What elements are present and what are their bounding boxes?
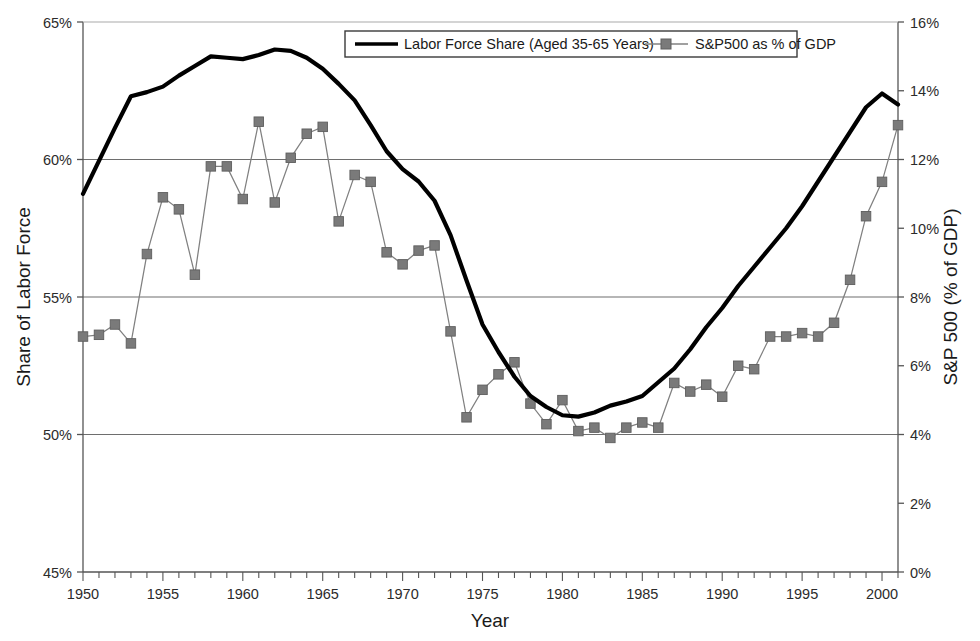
sp500-data-point (302, 129, 312, 139)
y2-axis-tick-label: 4% (910, 427, 931, 443)
y2-axis-tick-label: 2% (910, 496, 931, 512)
sp500-data-point (701, 380, 711, 390)
sp500-data-point (813, 332, 823, 342)
sp500-data-point (542, 419, 552, 429)
x-axis-tick-label: 1995 (786, 586, 818, 602)
legend-label-labor-force-share: Labor Force Share (Aged 35-65 Years) (404, 36, 654, 52)
sp500-data-point (174, 205, 184, 215)
sp500-data-point (686, 387, 696, 397)
sp500-data-point (110, 320, 120, 330)
y-axis-left-title: Share of Labor Force (13, 207, 34, 387)
sp500-data-point (749, 364, 759, 374)
sp500-data-point (350, 170, 360, 180)
sp500-data-point (893, 120, 903, 130)
sp500-data-point (446, 327, 456, 337)
sp500-data-point (558, 395, 568, 405)
y2-axis-tick-label: 8% (910, 290, 931, 306)
sp500-data-point (430, 241, 440, 251)
sp500-data-point (622, 423, 632, 433)
sp500-data-point (462, 413, 472, 423)
sp500-data-point (478, 385, 488, 395)
y-axis-tick-label: 60% (43, 152, 72, 168)
sp500-data-point (414, 246, 424, 256)
sp500-data-point (829, 318, 839, 328)
y2-axis-tick-label: 16% (910, 15, 939, 31)
sp500-data-point (254, 117, 263, 127)
x-axis-tick-label: 2000 (866, 586, 898, 602)
sp500-data-point (206, 162, 216, 172)
square-marker-swatch-icon (661, 39, 671, 49)
sp500-data-point (78, 332, 88, 342)
sp500-data-point (717, 392, 727, 402)
sp500-data-point (845, 275, 855, 285)
x-axis-title: Year (471, 610, 510, 631)
sp500-data-point (781, 332, 791, 342)
y2-axis-tick-label: 14% (910, 83, 939, 99)
y-axis-left-tick-labels: 45%50%55%60%65% (43, 15, 72, 581)
x-axis-tick-label: 1980 (546, 586, 578, 602)
sp500-data-point (574, 426, 584, 436)
x-axis-tick-label: 1975 (466, 586, 498, 602)
sp500-data-point (366, 177, 376, 187)
sp500-data-point (765, 332, 775, 342)
sp500-data-point (638, 418, 648, 428)
y2-axis-tick-label: 10% (910, 221, 939, 237)
sp500-data-point (733, 361, 743, 371)
sp500-data-point (398, 260, 408, 270)
x-axis-tick-label: 1990 (706, 586, 738, 602)
y2-axis-tick-label: 12% (910, 152, 939, 168)
sp500-data-point (158, 193, 168, 203)
y-axis-left-ticks (77, 22, 83, 572)
y-axis-tick-label: 45% (43, 565, 72, 581)
sp500-data-point (877, 177, 887, 187)
sp500-data-point (510, 358, 520, 368)
y-axis-right-tick-labels: 0%2%4%6%8%10%12%14%16% (910, 15, 939, 581)
y-axis-tick-label: 55% (43, 290, 72, 306)
sp500-data-point (382, 248, 392, 258)
sp500-data-point (270, 198, 280, 208)
sp500-data-point (94, 330, 104, 340)
sp500-data-point (238, 194, 248, 204)
sp500-data-point (190, 270, 200, 280)
legend-label-sp500: S&P500 as % of GDP (695, 36, 836, 52)
y-axis-right-title: S&P 500 (% of GDP) (940, 208, 961, 385)
sp500-data-point (142, 249, 152, 259)
sp500-data-point (797, 328, 807, 338)
y2-axis-tick-label: 6% (910, 358, 931, 374)
sp500-data-point (318, 122, 328, 132)
sp500-data-point (654, 423, 664, 433)
x-axis-tick-label: 1965 (307, 586, 339, 602)
y-axis-tick-label: 65% (43, 15, 72, 31)
dual-axis-line-chart: 45%50%55%60%65% 0%2%4%6%8%10%12%14%16% 1… (0, 0, 980, 641)
x-axis-tick-label: 1985 (626, 586, 658, 602)
sp500-data-point (606, 433, 616, 443)
sp500-data-point (494, 370, 504, 380)
x-axis-minor-ticks (83, 572, 898, 581)
sp500-data-point (670, 378, 680, 388)
sp500-data-point (126, 339, 136, 349)
chart-legend: Labor Force Share (Aged 35-65 Years) S&P… (345, 31, 836, 57)
y-axis-tick-label: 50% (43, 427, 72, 443)
figure-caption-partial (0, 629, 980, 641)
x-axis-tick-label: 1960 (227, 586, 259, 602)
chart-container: 45%50%55%60%65% 0%2%4%6%8%10%12%14%16% 1… (0, 0, 980, 641)
y2-axis-tick-label: 0% (910, 565, 931, 581)
sp500-data-point (590, 423, 600, 433)
x-axis-tick-label: 1955 (147, 586, 179, 602)
sp500-data-point (334, 217, 344, 227)
x-axis-tick-label: 1970 (386, 586, 418, 602)
sp500-data-point (222, 162, 232, 172)
x-axis-tick-labels: 1950195519601965197019751980198519901995… (67, 586, 898, 602)
sp500-data-point (861, 211, 871, 221)
x-axis-tick-label: 1950 (67, 586, 99, 602)
sp500-data-point (286, 153, 296, 163)
